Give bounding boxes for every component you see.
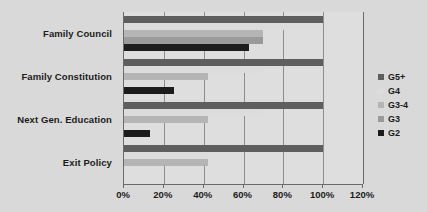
bar-group <box>124 98 363 141</box>
x-tick-label: 120% <box>350 189 374 200</box>
bar-g3 <box>124 37 263 44</box>
bar-g3-4 <box>124 30 263 37</box>
bar-chart: Family CouncilFamily ConstitutionNext Ge… <box>0 0 427 212</box>
category-label: Exit Policy <box>0 157 112 168</box>
x-tick-mark <box>362 185 363 188</box>
x-tick-label: 0% <box>116 189 130 200</box>
gridline <box>363 12 364 184</box>
bar-g3-4 <box>124 159 208 166</box>
legend-swatch-icon <box>378 130 384 136</box>
bar-g4 <box>124 66 263 73</box>
legend-item-g5plus[interactable]: G5+ <box>378 70 426 83</box>
bar-g4 <box>124 152 208 159</box>
legend-swatch-icon <box>378 74 384 80</box>
legend-item-g3[interactable]: G3 <box>378 112 426 125</box>
bar-group <box>124 12 363 55</box>
x-tick-label: 80% <box>273 189 292 200</box>
x-tick-label: 20% <box>153 189 172 200</box>
bar-g4 <box>124 23 323 30</box>
bar-g2 <box>124 87 174 94</box>
legend-swatch-icon <box>378 102 384 108</box>
bar-g2 <box>124 44 249 51</box>
legend-swatch-icon <box>378 88 384 94</box>
bar-g4 <box>124 109 263 116</box>
x-tick-mark <box>243 185 244 188</box>
category-label: Family Council <box>0 28 112 39</box>
x-tick-mark <box>282 185 283 188</box>
bar-g5plus <box>124 102 323 109</box>
bar-group <box>124 141 363 184</box>
category-label: Next Gen. Education <box>0 114 112 125</box>
bar-group <box>124 55 363 98</box>
legend-label: G3-4 <box>388 100 408 110</box>
legend-item-g2[interactable]: G2 <box>378 126 426 139</box>
x-tick-mark <box>163 185 164 188</box>
category-label: Family Constitution <box>0 71 112 82</box>
legend-label: G2 <box>388 128 400 138</box>
x-tick-mark <box>123 185 124 188</box>
category-axis: Family CouncilFamily ConstitutionNext Ge… <box>0 12 118 184</box>
legend-label: G4 <box>388 86 400 96</box>
legend-label: G5+ <box>388 72 405 82</box>
bars-layer <box>124 12 363 184</box>
x-tick-mark <box>203 185 204 188</box>
legend-swatch-icon <box>378 116 384 122</box>
x-tick-label: 60% <box>233 189 252 200</box>
legend-label: G3 <box>388 114 400 124</box>
x-tick-label: 100% <box>310 189 334 200</box>
legend-item-g3-4[interactable]: G3-4 <box>378 98 426 111</box>
plot-area <box>123 12 363 185</box>
value-axis: 0%20%40%60%80%100%120% <box>123 185 363 203</box>
x-tick-label: 40% <box>193 189 212 200</box>
bar-g5plus <box>124 145 323 152</box>
legend-item-g4[interactable]: G4 <box>378 84 426 97</box>
bar-g3-4 <box>124 73 208 80</box>
bar-g2 <box>124 130 150 137</box>
bar-g5plus <box>124 59 323 66</box>
chart-legend: G5+G4G3-4G3G2 <box>378 70 426 140</box>
x-tick-mark <box>322 185 323 188</box>
bar-g5plus <box>124 16 323 23</box>
bar-g3-4 <box>124 116 208 123</box>
